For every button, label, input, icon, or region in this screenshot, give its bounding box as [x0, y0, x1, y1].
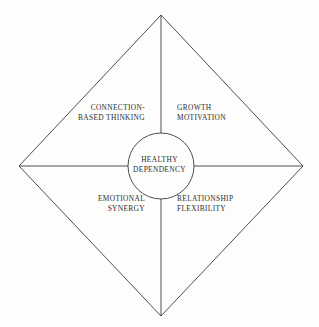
- quadrant-label-line-2: MOTIVATION: [177, 113, 226, 123]
- quadrant-label-line-1: EMOTIONAL: [98, 194, 145, 204]
- quadrant-label-emotional-synergy: EMOTIONAL SYNERGY: [98, 194, 145, 214]
- center-label-line-2: DEPENDENCY: [0, 165, 319, 175]
- quadrant-label-line-2: BASED THINKING: [78, 113, 145, 123]
- quadrant-label-line-1: RELATIONSHIP: [177, 194, 233, 204]
- quadrant-label-line-1: CONNECTION-: [78, 103, 145, 113]
- quadrant-label-line-2: FLEXIBILITY: [177, 204, 233, 214]
- healthy-dependency-diagram: HEALTHY DEPENDENCY CONNECTION- BASED THI…: [0, 0, 319, 327]
- center-label-line-1: HEALTHY: [0, 155, 319, 165]
- center-label-healthy-dependency: HEALTHY DEPENDENCY: [0, 155, 319, 176]
- quadrant-label-connection-based-thinking: CONNECTION- BASED THINKING: [78, 103, 145, 123]
- quadrant-label-line-2: SYNERGY: [98, 204, 145, 214]
- quadrant-label-growth-motivation: GROWTH MOTIVATION: [177, 103, 226, 123]
- quadrant-label-line-1: GROWTH: [177, 103, 226, 113]
- quadrant-label-relationship-flexibility: RELATIONSHIP FLEXIBILITY: [177, 194, 233, 214]
